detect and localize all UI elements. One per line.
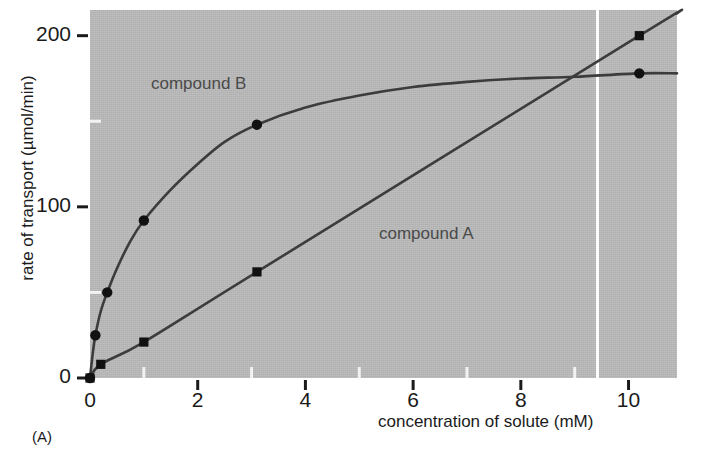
y-tick-label: 0 (0, 364, 71, 388)
x-axis-ticks (144, 367, 629, 390)
x-axis-title: concentration of solute (mM) (378, 412, 593, 432)
series-curves (90, 10, 682, 378)
x-tick-label: 10 (599, 388, 659, 412)
panel-label: (A) (32, 428, 52, 445)
y-axis-title: rate of transport (µmol/min) (18, 28, 38, 328)
x-tick-label: 4 (275, 388, 335, 412)
x-tick-label: 8 (491, 388, 551, 412)
figure-panel-a: 01002000246810 rate of transport (µmol/m… (0, 0, 702, 459)
x-tick-label: 6 (383, 388, 443, 412)
series-label-compound-b: compound B (151, 74, 246, 94)
series-label-compound-a: compound A (379, 224, 474, 244)
x-tick-label: 0 (60, 388, 120, 412)
x-tick-label: 2 (168, 388, 228, 412)
